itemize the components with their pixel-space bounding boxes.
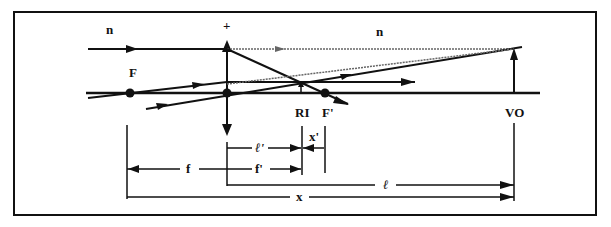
label-front-focus: F	[129, 65, 137, 80]
dimension-object-from-focus: x	[127, 189, 514, 204]
label-virtual-object: VO	[505, 105, 524, 120]
svg-text:x: x	[296, 189, 303, 204]
ray-parallel	[88, 45, 514, 105]
front-focus-point	[126, 89, 135, 98]
svg-text:f: f	[186, 161, 191, 176]
label-lens-sign: +	[223, 18, 230, 33]
svg-text:f': f'	[255, 161, 263, 176]
label-real-image: RI	[295, 105, 309, 120]
ray-chief	[146, 47, 522, 110]
lens-icon	[222, 40, 232, 136]
lens-diagram: n n + F RI F' VO ℓ' x' f f'	[0, 0, 611, 227]
back-focus-point	[321, 89, 330, 98]
ray-construction-dotted	[227, 49, 514, 84]
svg-text:ℓ': ℓ'	[255, 140, 265, 155]
dimension-back-focal-length: f'	[255, 161, 301, 176]
dimension-image-from-focus: x'	[303, 129, 324, 152]
label-medium-right: n	[376, 24, 384, 39]
dimension-image-distance: ℓ'	[227, 140, 301, 155]
lens-center-point	[223, 89, 232, 98]
virtual-object-arrow	[510, 48, 518, 93]
dimension-front-focal-length: f	[127, 161, 252, 176]
svg-text:x': x'	[309, 129, 319, 144]
dimension-object-distance: ℓ	[227, 177, 514, 192]
label-back-focus: F'	[322, 105, 334, 120]
label-medium-left: n	[106, 22, 114, 37]
svg-text:ℓ: ℓ	[383, 177, 389, 192]
